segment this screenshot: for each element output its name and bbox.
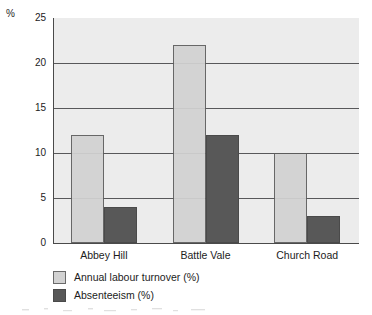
y-tick-label: 20	[18, 58, 46, 68]
gridline-20	[54, 63, 359, 64]
legend-item-absenteeism: Absenteeism (%)	[53, 287, 353, 304]
y-tick-label: 10	[18, 148, 46, 158]
legend-label: Absenteeism (%)	[74, 289, 154, 302]
legend-swatch-icon	[53, 271, 66, 284]
gridline-10	[54, 153, 359, 154]
legend-swatch-icon	[53, 289, 66, 302]
plot-area	[53, 18, 359, 244]
x-axis-label-church-road: Church Road	[256, 248, 358, 262]
bar-chart: % 25 20 15 10 5 0 Abbey HillBattle ValeC…	[0, 0, 372, 315]
x-axis-label-abbey-hill: Abbey Hill	[53, 248, 155, 262]
legend-item-annual-labour-turnover: Annual labour turnover (%)	[53, 269, 353, 286]
gridline-15	[54, 108, 359, 109]
y-tick-label: 5	[18, 193, 46, 203]
gridline-5	[54, 198, 359, 199]
x-axis-label-battle-vale: Battle Vale	[155, 248, 257, 262]
legend-label: Annual labour turnover (%)	[74, 271, 199, 284]
x-axis-category-labels: Abbey HillBattle ValeChurch Road	[53, 248, 358, 264]
scan-noise-artifact	[0, 304, 372, 315]
y-tick-label: 25	[18, 13, 46, 23]
y-axis-unit-label: %	[6, 8, 15, 19]
y-tick-label: 0	[18, 238, 46, 248]
legend: Annual labour turnover (%) Absenteeism (…	[53, 269, 353, 305]
y-tick-label: 15	[18, 103, 46, 113]
